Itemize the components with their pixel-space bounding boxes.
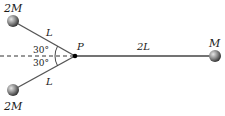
lower-angle-arc bbox=[55, 56, 58, 66]
upper-mass-ball bbox=[7, 15, 19, 27]
right-mass-label: M bbox=[208, 37, 221, 50]
upper-angle-arc bbox=[55, 46, 58, 56]
upper-mass-label: 2M bbox=[3, 2, 23, 15]
lower-angle-label: 30° bbox=[33, 58, 49, 68]
pivot-label: P bbox=[76, 41, 84, 52]
right-mass-ball bbox=[209, 50, 221, 62]
pivot-point bbox=[73, 54, 78, 59]
lower-mass-label: 2M bbox=[3, 100, 23, 113]
upper-rod-label: L bbox=[45, 27, 53, 38]
right-rod-label: 2L bbox=[136, 41, 150, 52]
upper-angle-label: 30° bbox=[33, 45, 49, 55]
lower-rod-label: L bbox=[45, 76, 53, 87]
lower-mass-ball bbox=[7, 84, 19, 96]
diagram-canvas: 2M 2M M P L L 2L 30° 30° bbox=[0, 0, 225, 116]
